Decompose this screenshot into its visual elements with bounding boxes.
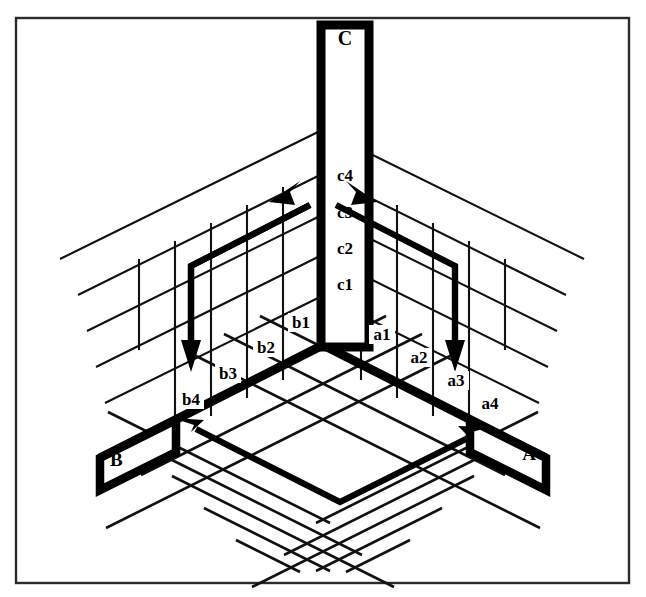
- label-tick-b4: b4: [182, 390, 200, 409]
- label-tick-c1: c1: [337, 275, 353, 294]
- label-tick-b3: b3: [219, 364, 237, 383]
- label-tick-a4: a4: [482, 394, 500, 413]
- column-c-axis: [321, 25, 369, 347]
- label-axis-c: C: [338, 27, 352, 49]
- label-tick-a2: a2: [411, 348, 428, 367]
- figure-root: C c4 c3 c2 c1 a1 a2 a3 a4 b1 b2 b3 b4 B …: [0, 0, 646, 597]
- label-tick-b2: b2: [257, 338, 275, 357]
- label-tick-a1: a1: [374, 325, 391, 344]
- label-tick-c4: c4: [337, 166, 354, 185]
- label-tick-c2: c2: [337, 239, 353, 258]
- label-tick-c3: c3: [337, 203, 353, 222]
- label-axis-b: B: [110, 449, 123, 470]
- label-tick-a3: a3: [448, 371, 465, 390]
- isometric-corner-diagram: C c4 c3 c2 c1 a1 a2 a3 a4 b1 b2 b3 b4 B …: [0, 0, 646, 597]
- label-axis-a: A: [522, 443, 536, 464]
- label-tick-b1: b1: [292, 313, 310, 332]
